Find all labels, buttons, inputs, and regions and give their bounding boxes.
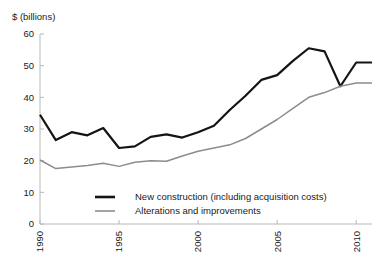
x-tick-label: 2000 [192, 231, 203, 252]
x-tick-label: 1995 [113, 231, 124, 252]
series-line-alterations [40, 83, 372, 168]
x-tick-label: 2010 [351, 231, 362, 252]
legend-label-new-construction: New construction (including acquisition … [135, 191, 327, 202]
y-tick-label: 30 [23, 123, 34, 134]
y-tick-label: 50 [23, 60, 34, 71]
chart-container: $ (billions) 0102030405060 1990199520002… [0, 0, 379, 265]
y-tick-label: 0 [29, 218, 34, 229]
y-tick-label: 40 [23, 92, 34, 103]
series-line-new-construction [40, 48, 372, 148]
y-tick-label: 20 [23, 155, 34, 166]
legend-label-alterations: Alterations and improvements [135, 205, 261, 216]
x-tick-label: 1990 [34, 231, 45, 252]
y-axis-title-group: $ (billions) [12, 11, 55, 22]
x-tick-label: 2005 [272, 231, 283, 252]
chart-legend: New construction (including acquisition … [95, 191, 327, 216]
y-axis: 0102030405060 [23, 28, 44, 229]
y-tick-label: 60 [23, 28, 34, 39]
y-tick-label: 10 [23, 187, 34, 198]
line-chart: $ (billions) 0102030405060 1990199520002… [0, 0, 379, 265]
y-axis-title: $ (billions) [12, 11, 55, 22]
data-series-group [40, 48, 372, 168]
x-axis: 19901995200020052010 [34, 220, 361, 252]
